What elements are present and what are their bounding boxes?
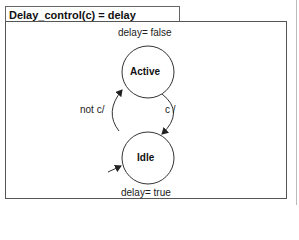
- state-idle-label: Idle: [137, 152, 154, 163]
- idle-output-label: delay= true: [121, 187, 171, 198]
- transition-idle-to-active: [112, 90, 122, 131]
- active-output-label: delay= false: [118, 27, 172, 38]
- state-active-label: Active: [130, 66, 160, 77]
- initial-state-arrow: [108, 166, 121, 172]
- transition-label-not-c: not c/: [80, 104, 104, 115]
- transition-label-c: c /: [165, 104, 176, 115]
